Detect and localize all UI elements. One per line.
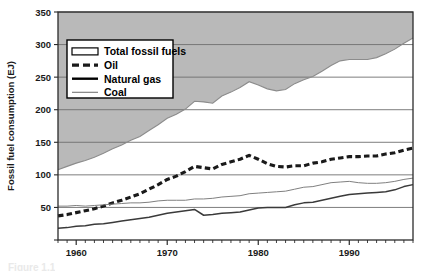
y-axis-tick-label: 250 [35,72,51,83]
y-axis-tick-label: 50 [40,202,51,213]
x-axis-tick-label: 1970 [157,247,178,258]
y-axis-title: Fossil fuel consumption (EJ) [5,61,16,191]
x-axis-tick-label: 1980 [248,247,269,258]
y-axis-tick-label: 200 [35,104,51,115]
legend-label: Coal [104,86,127,98]
figure-root: 501001502002503003501960197019801990Foss… [0,0,428,271]
legend-label: Total fossil fuels [104,45,186,57]
chart-legend: Total fossil fuelsOilNatural gasCoal [67,40,186,98]
legend-label: Natural gas [104,73,161,85]
fossil-fuel-consumption-chart: 501001502002503003501960197019801990Foss… [0,0,428,271]
figure-caption: Figure 1.1 [8,262,55,271]
legend-swatch-total-fossil-fuels [72,48,98,55]
x-axis-tick-label: 1960 [66,247,87,258]
y-axis-tick-label: 100 [35,169,51,180]
y-axis-tick-label: 300 [35,39,51,50]
legend-label: Oil [104,59,118,71]
y-axis-tick-label: 350 [35,7,51,18]
y-axis-tick-label: 150 [35,137,51,148]
x-axis-tick-label: 1990 [339,247,360,258]
